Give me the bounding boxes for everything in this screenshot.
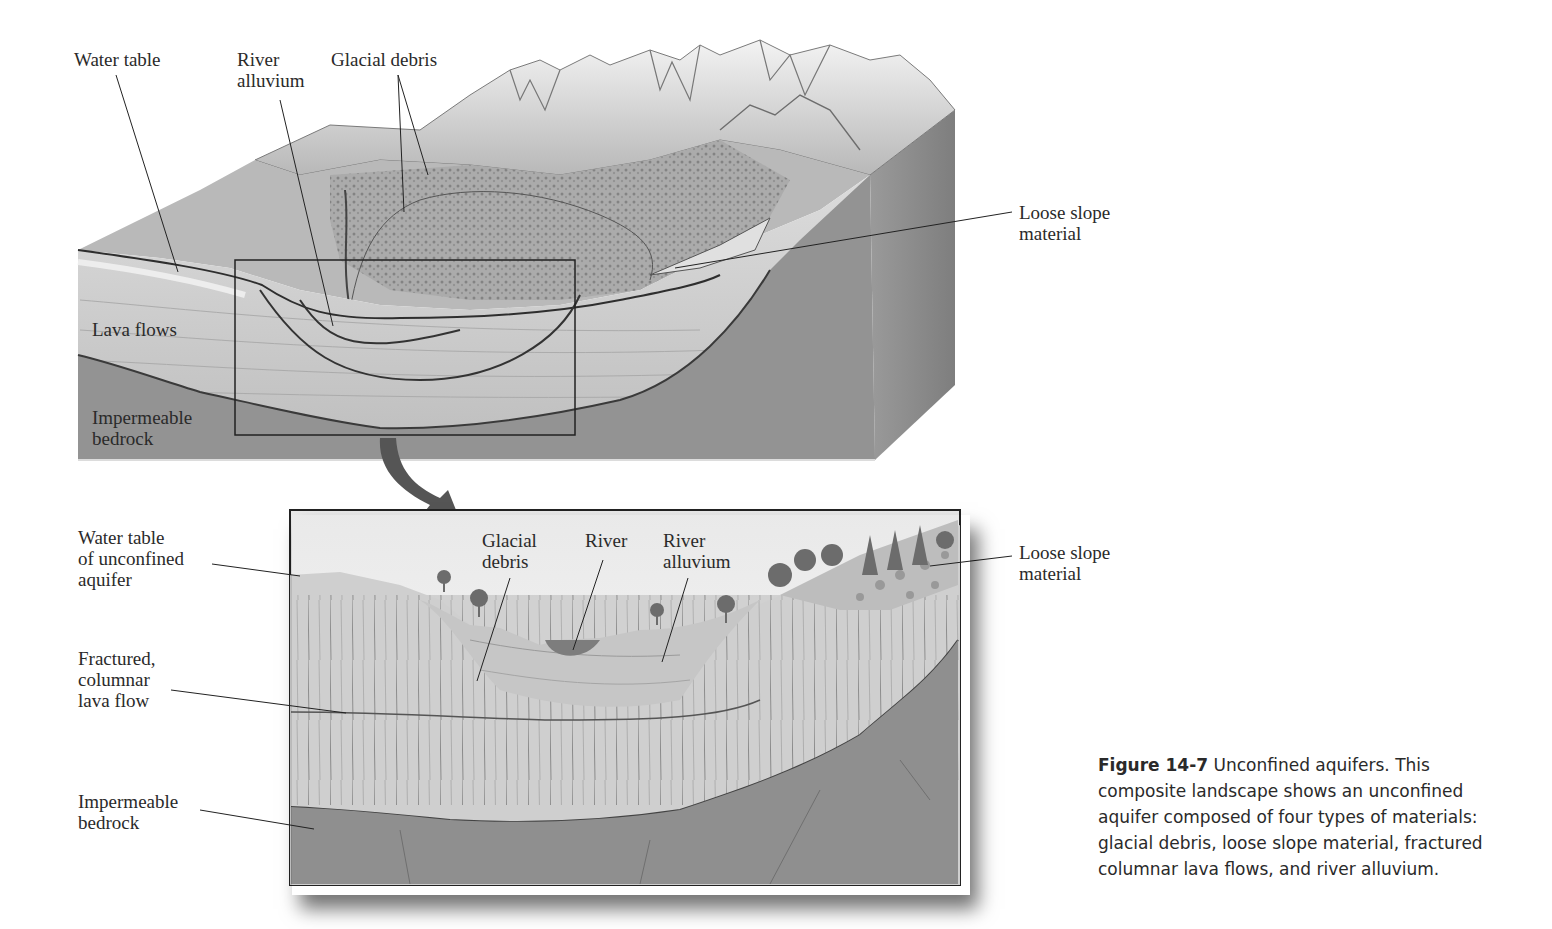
label-inset-river-alluvium: River alluvium xyxy=(663,530,731,572)
label-inset-river: River xyxy=(585,530,627,551)
label-inset-water-table: Water table of unconfined aquifer xyxy=(78,527,184,590)
label-lava-flows: Lava flows xyxy=(92,319,177,340)
inset-cross-section xyxy=(290,510,960,885)
label-river-alluvium: River alluvium xyxy=(237,49,305,91)
label-loose-slope-material: Loose slope material xyxy=(1019,202,1110,244)
block-diagram xyxy=(78,40,955,460)
label-inset-glacial-debris: Glacial debris xyxy=(482,530,537,572)
label-impermeable-bedrock: Impermeable bedrock xyxy=(92,407,192,449)
label-inset-loose-slope-material: Loose slope material xyxy=(1019,542,1110,584)
label-glacial-debris: Glacial debris xyxy=(331,49,437,70)
label-water-table: Water table xyxy=(74,49,161,70)
figure-number: Figure 14-7 xyxy=(1098,755,1208,775)
label-inset-fractured-lava: Fractured, columnar lava flow xyxy=(78,648,156,711)
label-inset-bedrock: Impermeable bedrock xyxy=(78,791,178,833)
figure-caption: Figure 14-7 Unconfined aquifers. This co… xyxy=(1098,752,1518,882)
